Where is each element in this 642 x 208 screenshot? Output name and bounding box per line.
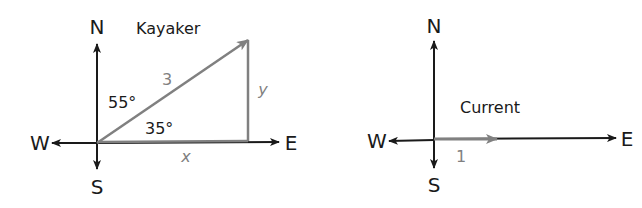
west-label: W	[30, 131, 50, 155]
west-axis	[389, 140, 434, 141]
current-title: Current	[460, 98, 520, 117]
south-label: S	[91, 175, 104, 199]
x-component-line	[97, 141, 248, 142]
magnitude-label: 3	[162, 70, 172, 89]
vector-diagrams: N S W E Kayaker 3 55° 35° x y N S W E Cu…	[0, 0, 642, 208]
magnitude-label: 1	[456, 147, 466, 166]
x-label: x	[180, 147, 191, 166]
kayaker-title: Kayaker	[136, 19, 201, 38]
east-label: E	[285, 131, 298, 155]
east-label: E	[621, 127, 634, 151]
south-label: S	[428, 173, 441, 197]
west-label: W	[367, 129, 387, 153]
angle-55-label: 55°	[108, 93, 136, 112]
current-diagram: N S W E Current 1	[367, 14, 633, 197]
north-label: N	[427, 14, 442, 38]
kayaker-diagram: N S W E Kayaker 3 55° 35° x y	[30, 15, 297, 199]
north-label: N	[90, 15, 105, 39]
angle-35-label: 35°	[145, 119, 173, 138]
y-label: y	[257, 80, 268, 99]
